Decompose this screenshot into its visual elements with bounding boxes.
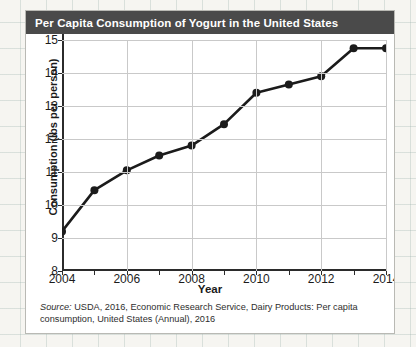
gridline-horizontal xyxy=(62,40,386,41)
page-title: Per Capita Consumption of Yogurt in the … xyxy=(35,17,338,29)
source-note: Source: USDA, 2016, Economic Research Se… xyxy=(40,301,380,326)
y-axis-tick xyxy=(58,139,62,140)
gridline-vertical xyxy=(386,40,387,271)
gridline-horizontal xyxy=(62,106,386,107)
y-axis-tick xyxy=(58,238,62,239)
chart-title-bar: Per Capita Consumption of Yogurt in the … xyxy=(26,11,394,34)
y-axis-tick-label: 15 xyxy=(36,33,58,47)
gridline-vertical xyxy=(127,40,128,271)
y-axis-tick xyxy=(58,106,62,107)
data-point-marker xyxy=(90,186,98,194)
y-axis-tick-label: 11 xyxy=(36,165,58,179)
y-axis-tick-label: 10 xyxy=(36,198,58,212)
chart-plot-container: Consumption (lbs per person) 15141312111… xyxy=(26,34,394,296)
source-text: USDA, 2016, Economic Research Service, D… xyxy=(40,302,358,324)
chart-card: Per Capita Consumption of Yogurt in the … xyxy=(25,10,395,334)
gridline-horizontal xyxy=(62,73,386,74)
gridline-vertical xyxy=(192,40,193,271)
y-axis-tick-label: 9 xyxy=(36,231,58,245)
source-label: Source: xyxy=(40,302,72,312)
y-axis-tick xyxy=(58,205,62,206)
y-axis-tick xyxy=(58,172,62,173)
gridline-horizontal xyxy=(62,238,386,239)
x-axis-title: Year xyxy=(26,283,394,295)
y-axis-tick-label: 12 xyxy=(36,132,58,146)
y-axis-tick-label: 13 xyxy=(36,99,58,113)
y-axis-tick xyxy=(58,73,62,74)
gridline-vertical xyxy=(321,40,322,271)
gridline-horizontal xyxy=(62,139,386,140)
data-point-marker xyxy=(285,81,293,89)
data-series-yogurt-consumption xyxy=(62,40,386,271)
gridline-horizontal xyxy=(62,205,386,206)
gridline-vertical xyxy=(256,40,257,271)
plot-area xyxy=(62,40,386,271)
data-point-marker xyxy=(220,120,228,128)
y-axis-tick-labels: 15141312111098 xyxy=(26,34,58,296)
data-point-marker xyxy=(155,152,163,160)
y-axis-tick-label: 14 xyxy=(36,66,58,80)
data-point-marker xyxy=(350,44,358,52)
y-axis-tick xyxy=(58,40,62,41)
gridline-horizontal xyxy=(62,172,386,173)
